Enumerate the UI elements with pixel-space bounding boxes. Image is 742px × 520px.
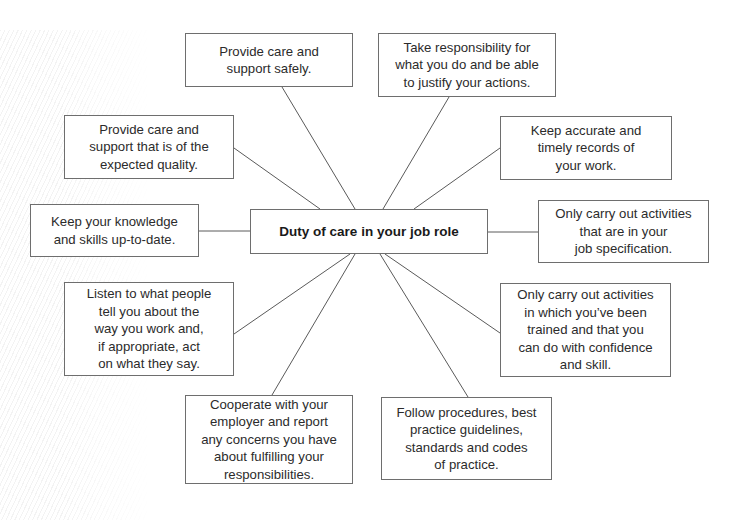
connector-safely [282,87,355,209]
node-knowledge-skills: Keep your knowledge and skills up-to-dat… [30,204,199,257]
node-cooperate-employer: Cooperate with your employer and report … [185,395,353,484]
connector-responsibility [383,97,449,209]
node-job-specification: Only carry out activities that are in yo… [538,200,709,263]
connector-trained [385,254,500,333]
node-listen-to-people: Listen to what people tell you about the… [64,282,234,376]
connector-cooperate [272,254,355,395]
connector-quality [234,148,320,209]
connector-procedures [380,254,468,397]
central-topic: Duty of care in your job role [250,209,488,254]
node-accurate-records: Keep accurate and timely records of your… [500,116,672,180]
node-provide-care-safely: Provide care and support safely. [185,33,353,87]
node-follow-procedures: Follow procedures, best practice guideli… [381,397,552,480]
connector-listen [234,254,350,334]
node-trained-activities: Only carry out activities in which you’v… [500,283,671,377]
node-expected-quality: Provide care and support that is of the … [64,115,234,179]
node-take-responsibility: Take responsibility for what you do and … [378,33,556,97]
connector-records [414,148,500,209]
